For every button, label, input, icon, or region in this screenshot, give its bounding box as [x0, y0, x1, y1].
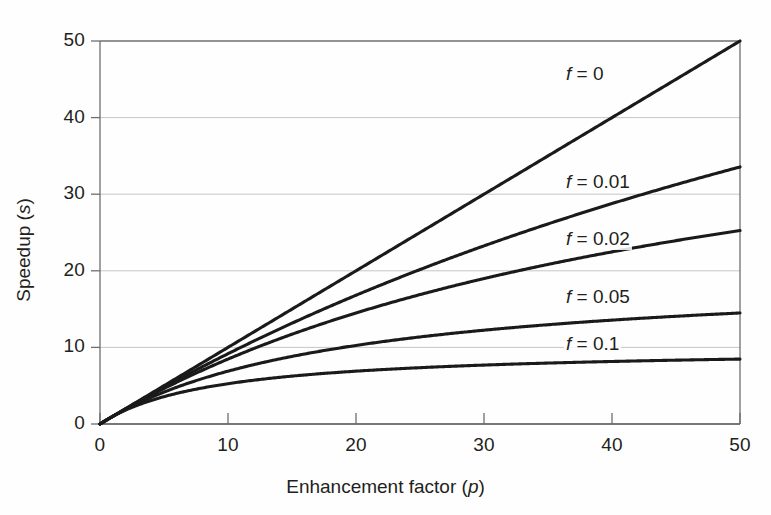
series-label-value: = 0: [571, 63, 603, 84]
series-label-f-0.01: f = 0.01: [564, 171, 632, 193]
x-axis-title-variable: p: [468, 476, 479, 497]
y-tick-label-10: 10: [39, 335, 85, 357]
x-axis-title-text: Enhancement factor: [286, 476, 456, 497]
y-axis-title-wrapper: Speedup (s): [4, 130, 44, 370]
x-tick-label-50: 50: [710, 434, 770, 456]
y-axis-title-variable: s: [13, 205, 34, 215]
series-label-f-0.05: f = 0.05: [564, 286, 632, 308]
series-label-value: = 0.02: [571, 228, 630, 249]
y-axis-title-text: Speedup: [13, 226, 34, 302]
y-tick-label-0: 0: [39, 412, 85, 434]
data-curves-group: [100, 41, 740, 424]
series-label-f-0.02: f = 0.02: [564, 228, 632, 250]
x-axis-title-paren-close: ): [478, 476, 484, 497]
series-label-value: = 0.01: [571, 171, 630, 192]
x-tick-label-20: 20: [326, 434, 386, 456]
series-label-value: = 0.05: [571, 286, 630, 307]
y-axis-title-paren-open: (: [13, 214, 34, 226]
x-axis-title-paren-open: (: [456, 476, 468, 497]
curve-f-0.02: [100, 231, 740, 424]
y-tick-label-20: 20: [39, 259, 85, 281]
y-tick-label-30: 30: [39, 182, 85, 204]
amdahls-law-chart-figure: 01020304050 01020304050 Speedup (s) Enha…: [0, 0, 771, 515]
x-tick-label-30: 30: [454, 434, 514, 456]
series-label-f-0: f = 0: [564, 63, 606, 85]
x-axis-title: Enhancement factor (p): [0, 476, 771, 498]
y-axis-title-paren-close: ): [13, 198, 34, 204]
y-tick-label-40: 40: [39, 106, 85, 128]
x-tick-label-10: 10: [198, 434, 258, 456]
series-label-f-0.1: f = 0.1: [564, 333, 621, 355]
y-axis-title: Speedup (s): [13, 198, 35, 302]
series-label-value: = 0.1: [571, 333, 619, 354]
y-tick-label-50: 50: [39, 29, 85, 51]
x-tick-label-40: 40: [582, 434, 642, 456]
x-tick-label-0: 0: [70, 434, 130, 456]
